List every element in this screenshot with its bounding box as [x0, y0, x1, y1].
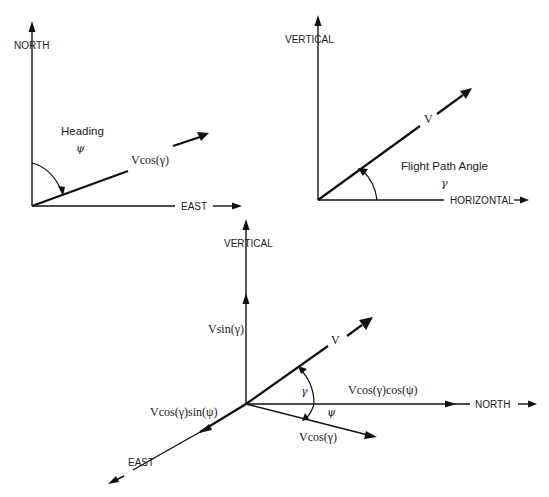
3d-velocity-arrow-line	[347, 325, 362, 336]
horizontal-velocity-label: Vcos(γ)	[131, 153, 169, 167]
velocity-label: V	[424, 112, 433, 126]
three-d-diagram: VERTICAL Vsin(γ) NORTH Vcos(γ)cos(ψ) EAS…	[108, 219, 537, 484]
north-component-arrow-icon	[445, 401, 456, 408]
3d-velocity-arrow-icon	[359, 317, 373, 330]
north-arrow-icon	[29, 21, 36, 32]
flight-path-diagram: VERTICAL HORIZONTAL V Flight Path Angle …	[285, 15, 529, 206]
3d-north-axis-label: NORTH	[475, 399, 510, 410]
flight-path-angle-title: Flight Path Angle	[401, 160, 488, 172]
3d-gamma-symbol: γ	[301, 385, 308, 398]
horizontal-arrow-icon	[520, 197, 529, 204]
flight-path-angle-symbol: γ	[441, 177, 448, 190]
3d-psi-symbol: ψ	[327, 406, 336, 419]
velocity-diagram-canvas: NORTH EAST Vcos(γ) Heading ψ VERTICAL HO…	[0, 0, 549, 497]
heading-angle-symbol: ψ	[76, 142, 85, 155]
north-component-label: Vcos(γ)cos(ψ)	[348, 383, 417, 397]
horizontal-axis-label: HORIZONTAL	[450, 195, 514, 206]
horizontal-projection-label: Vcos(γ)	[299, 430, 337, 444]
vertical-component-label: Vsin(γ)	[208, 322, 244, 336]
heading-diagram: NORTH EAST Vcos(γ) Heading ψ	[14, 21, 242, 212]
velocity-arrow-icon	[460, 88, 472, 99]
3d-east-arrow-icon	[108, 476, 119, 484]
heading-angle-title: Heading	[61, 125, 104, 137]
horizontal-velocity-line	[32, 171, 128, 206]
3d-vertical-component-arrow-icon	[243, 293, 250, 304]
3d-east-axis-label: EAST	[128, 457, 154, 468]
vertical-arrow-icon	[315, 15, 322, 26]
horizontal-projection-arrow-icon	[364, 431, 377, 439]
flight-path-angle-arc	[362, 170, 377, 200]
east-component-label: Vcos(γ)sin(ψ)	[150, 405, 217, 419]
3d-north-arrow-icon	[528, 401, 537, 408]
3d-gamma-arrow-icon	[298, 366, 307, 374]
east-arrow-icon	[232, 203, 242, 210]
velocity-arrow-line	[437, 95, 463, 114]
3d-vertical-axis-label: VERTICAL	[224, 238, 273, 249]
3d-vertical-arrow-icon	[243, 219, 250, 230]
horizontal-velocity-arrow-line	[173, 137, 200, 146]
heading-angle-arc	[32, 163, 62, 192]
3d-velocity-label: V	[331, 333, 340, 347]
north-axis-label: NORTH	[14, 40, 49, 51]
3d-velocity-line	[246, 346, 328, 404]
east-axis-label: EAST	[181, 201, 207, 212]
vertical-axis-label: VERTICAL	[285, 34, 334, 45]
